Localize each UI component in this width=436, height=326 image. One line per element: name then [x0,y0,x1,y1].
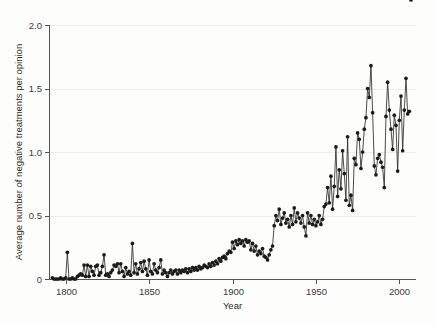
data-point [147,258,151,262]
data-point [304,234,308,238]
data-point [119,262,123,266]
data-point [384,115,388,119]
y-axis-title: Average number of negative treatments pe… [13,44,24,260]
data-point [156,271,160,275]
data-point [362,127,366,131]
data-point [89,264,93,268]
data-point [391,148,395,152]
data-point [241,239,245,243]
data-point [139,261,143,265]
data-point [387,108,391,112]
data-point [346,135,350,139]
data-point [347,203,351,207]
data-point [152,262,156,266]
y-tick-label-3: 1.5 [29,83,42,94]
data-point [379,160,383,164]
data-point [234,239,238,243]
data-point [251,242,255,246]
data-point [81,273,85,277]
data-point [311,223,315,227]
data-point [141,270,145,274]
y-axis: 00.51.01.52.0 [29,20,50,285]
data-point [332,184,336,188]
data-point [342,172,346,176]
data-point [134,262,138,266]
data-point [196,268,200,272]
y-tick-label-2: 1.0 [29,147,42,158]
data-point [92,273,96,277]
data-point [299,221,303,225]
data-point [336,195,340,199]
data-point [286,217,290,221]
data-point [111,268,115,272]
data-point [129,273,133,277]
data-point [297,216,301,220]
series-line [52,66,409,279]
data-point [341,149,345,153]
data-point [377,153,381,157]
data-point [261,247,265,251]
data-point [232,247,236,251]
data-point [312,217,316,221]
x-tick-label-2: 1900 [223,286,244,297]
y-tick-label-1: 0.5 [29,210,42,221]
data-point [321,217,325,221]
data-point [364,116,368,120]
data-point [314,224,318,228]
data-point [302,225,306,229]
data-point [254,244,258,248]
data-point [319,223,323,227]
data-point [247,239,251,243]
data-point [376,157,380,161]
data-point [357,137,361,141]
data-point [271,244,275,248]
data-point [294,220,298,224]
data-point [337,168,341,172]
data-point [82,263,86,267]
data-point [157,266,161,270]
data-point [161,272,165,276]
data-point [392,113,396,117]
x-tick-label-0: 1800 [56,286,77,297]
data-point [409,0,413,2]
data-point [396,169,400,173]
data-point [339,187,343,191]
data-point [279,223,283,227]
data-point [367,96,371,100]
x-tick-label-3: 1950 [306,286,327,297]
data-point [284,221,288,225]
data-point [206,266,210,270]
data-point [289,214,293,218]
data-point [381,165,385,169]
data-point [236,243,240,247]
data-point [354,163,358,167]
data-point [121,270,125,274]
data-point [252,249,256,253]
data-point [266,258,270,262]
data-point [356,131,360,135]
data-point [389,127,393,131]
data-point [331,207,335,211]
data-point [107,275,111,279]
data-point [102,253,106,257]
data-point [216,262,220,266]
data-point [249,248,253,252]
data-point [329,174,333,178]
data-point [371,111,375,115]
data-point [166,275,170,279]
data-point [309,214,313,218]
data-point [269,248,273,252]
data-point [394,123,398,127]
data-point [212,263,216,267]
data-point [287,225,291,229]
data-point [334,145,338,149]
data-point [352,157,356,161]
data-point [84,275,88,279]
line-chart: 00.51.01.52.018001850190019502000YearAve… [0,0,436,326]
data-point [327,201,331,205]
data-point [189,270,193,274]
data-point [117,271,121,275]
data-point [399,94,403,98]
data-point [127,270,131,274]
data-point [142,259,146,263]
